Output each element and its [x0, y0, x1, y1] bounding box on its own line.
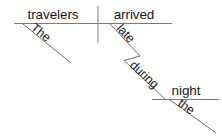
word-object-of-preposition: night: [172, 83, 201, 98]
word-subject-article: The: [28, 20, 53, 44]
sentence-diagram-canvas: travelers arrived The late during night …: [0, 0, 222, 140]
word-preposition: during: [127, 58, 162, 92]
word-verb-modifier: late: [114, 21, 138, 45]
word-subject: travelers: [28, 7, 79, 22]
word-verb: arrived: [114, 7, 155, 22]
sentence-diagram: travelers arrived The late during night …: [0, 0, 222, 140]
